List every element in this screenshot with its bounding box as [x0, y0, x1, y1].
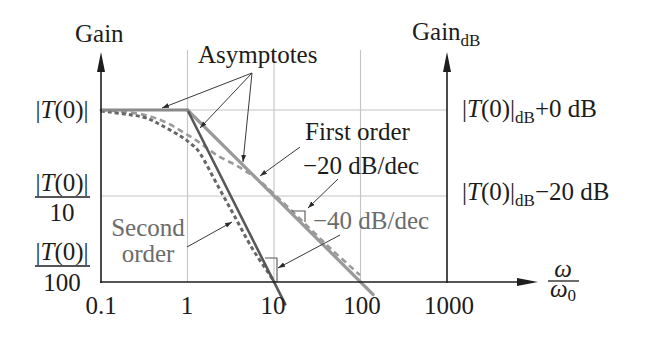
x-axis-arrow-icon [517, 278, 538, 286]
y-right-tick-1: |T(0)|dB−20 dB [462, 178, 609, 210]
x-tick-2: 10 [261, 292, 286, 319]
y-left-tick-0: |T(0)| [35, 96, 88, 124]
y-axis-left [97, 52, 105, 283]
y-left-tick-2-numerator: |T(0)| [35, 238, 88, 266]
second-order-label-line2: order [122, 240, 175, 267]
y-right-tick-0: |T(0)|dB+0 dB [462, 95, 597, 127]
y-axis-right-arrow-icon [443, 52, 451, 72]
asymptotes-leader-flat [162, 73, 252, 108]
second-order-asymptote [188, 110, 286, 304]
asymptotes-label: Asymptotes [198, 41, 317, 68]
y-axis-right-title: GaindB [412, 18, 480, 50]
y-left-tick-1-denominator: 10 [50, 199, 75, 226]
first-slope-leader [308, 179, 338, 208]
y-left-tick-2-denominator: 100 [43, 269, 81, 296]
y-axis-left-arrow-icon [97, 52, 105, 72]
y-left-tick-2: |T(0)| 100 [35, 238, 90, 296]
bode-gain-figure: Gain GaindB |T(0)| |T(0)| 10 |T(0)| 100 … [0, 0, 653, 339]
second-order-slope-label: −40 dB/dec [313, 207, 429, 234]
y-axis-right-title-main: Gain [412, 18, 461, 45]
first-order-label: First order [305, 118, 411, 145]
x-title-denominator: ω0 [550, 275, 576, 305]
first-order-leader [260, 147, 300, 176]
y-axis-right [443, 52, 451, 283]
y-axis-right-title-sub: dB [461, 31, 481, 50]
asymptotes-leader-second [200, 73, 252, 128]
x-tick-3: 100 [343, 292, 381, 319]
x-tick-0: 0.1 [85, 292, 116, 319]
y-axis-left-title: Gain [75, 20, 124, 47]
y-left-tick-1: |T(0)| 10 [35, 169, 90, 226]
second-order-leader [187, 222, 232, 247]
first-order-slope-label: −20 dB/dec [303, 152, 419, 179]
x-axis-title: ω ω0 [548, 255, 579, 305]
y-left-tick-1-numerator: |T(0)| [35, 169, 88, 197]
x-tick-1: 1 [181, 292, 194, 319]
x-axis [100, 278, 538, 286]
x-tick-4: 1000 [424, 292, 474, 319]
asymptotes-leader-first [243, 73, 252, 162]
second-order-label-line1: Second [111, 214, 185, 241]
